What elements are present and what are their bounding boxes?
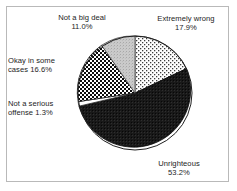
pie-chart-figure: Not a big deal 11.0% Extremely wrong 17.… xyxy=(0,0,237,191)
pie-label-not-a-serious-offense: Not a serious offense 1.3% xyxy=(8,99,92,118)
pie-label-unrighteous: Unrighteous 53.2% xyxy=(136,159,222,178)
pie-label-not-a-big-deal: Not a big deal 11.0% xyxy=(36,13,128,32)
pie-label-extremely-wrong: Extremely wrong 17.9% xyxy=(142,14,230,33)
pie-label-okay-in-some-cases: Okay in some cases 16.6% xyxy=(8,56,92,75)
